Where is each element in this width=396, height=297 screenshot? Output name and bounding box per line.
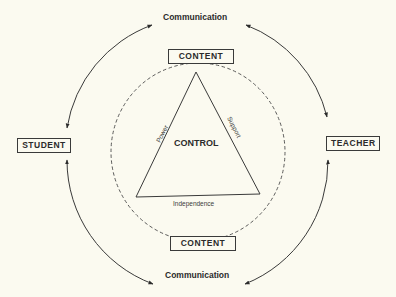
content-box-top: CONTENT	[168, 49, 234, 64]
communication-label-top: Communication	[163, 13, 227, 22]
arc-student-to-bottom-communication	[67, 160, 153, 284]
arc-student-to-top-communication	[67, 25, 152, 128]
arc-bottom-communication-to-teacher	[245, 160, 328, 284]
dashed-boundary-circle	[111, 63, 285, 241]
teacher-box: TEACHER	[326, 136, 380, 151]
arc-top-communication-to-teacher	[246, 25, 327, 117]
triangle-side-independence: Independence	[173, 201, 214, 208]
content-box-bottom: CONTENT	[170, 236, 236, 251]
triangle-side-support: Support	[225, 115, 243, 139]
control-label: CONTROL	[174, 139, 219, 148]
student-box: STUDENT	[17, 138, 71, 153]
triangle-side-power: Power	[155, 123, 170, 143]
communication-label-bottom: Communication	[165, 271, 229, 280]
